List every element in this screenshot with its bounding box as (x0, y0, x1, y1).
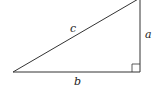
label-b: b (74, 75, 81, 88)
triangle (13, 0, 140, 72)
label-c: c (70, 22, 76, 35)
right-angle-marker (132, 64, 140, 72)
label-a: a (145, 28, 152, 41)
right-triangle-diagram: c a b (0, 0, 155, 96)
